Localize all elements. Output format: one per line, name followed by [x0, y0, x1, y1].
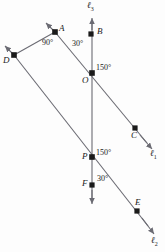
- angle-label-O-right: 150°: [96, 64, 111, 72]
- point-label-E: E: [135, 198, 141, 207]
- point-label-O: O: [82, 76, 89, 85]
- line-l1-arrow-end: [140, 135, 152, 149]
- line-label-l2: ℓ2: [151, 236, 158, 247]
- point-dot-A: [52, 29, 58, 35]
- angle-label-A: 90°: [42, 39, 53, 47]
- line-label-l2-sub: 2: [155, 241, 158, 247]
- angle-label-O-upper: 30°: [72, 40, 83, 48]
- geometry-figure: A B C D E F O P ℓ1 ℓ2 ℓ3 90° 30° 150° 15…: [0, 0, 165, 252]
- point-label-B: B: [97, 27, 103, 36]
- point-dot-F: [89, 182, 94, 187]
- point-label-D: D: [3, 56, 10, 65]
- point-label-P: P: [82, 152, 88, 161]
- point-label-A: A: [59, 24, 65, 33]
- line-label-l3-sub: 3: [91, 6, 94, 12]
- point-dot-E: [134, 208, 139, 213]
- point-dot-O: [89, 70, 95, 76]
- line-label-l1-sub: 1: [154, 154, 157, 160]
- line-l2: [5, 46, 154, 234]
- angle-label-P-lower: 30°: [97, 175, 108, 183]
- point-dot-B: [88, 31, 93, 36]
- point-label-C: C: [131, 131, 137, 140]
- line-l2-arrow-end: [142, 218, 154, 234]
- point-dot-D: [11, 52, 17, 58]
- line-label-l3: ℓ3: [87, 1, 94, 12]
- line-label-l1: ℓ1: [150, 149, 157, 160]
- point-label-F: F: [82, 179, 88, 188]
- angle-label-P-right: 150°: [96, 149, 111, 157]
- line-l2-segment: [14, 55, 148, 226]
- point-dot-P: [89, 154, 95, 160]
- figure-canvas: [0, 0, 165, 252]
